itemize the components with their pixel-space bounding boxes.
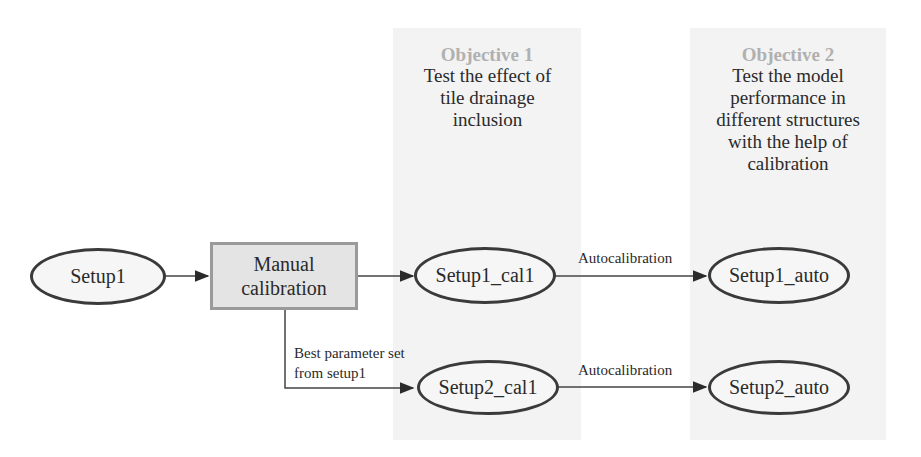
node-setup1: Setup1 — [30, 248, 166, 305]
edge-label-best-parameter: Best parameter set from setup1 — [294, 343, 414, 383]
node-manual-calibration: Manual calibration — [210, 242, 358, 310]
edge-label-autocalibration-2: Autocalibration — [578, 360, 672, 380]
node-setup2-auto: Setup2_auto — [708, 360, 850, 415]
node-setup2-cal1: Setup2_cal1 — [417, 360, 559, 415]
node-setup1-cal1: Setup1_cal1 — [414, 247, 556, 304]
edge-label-autocalibration-1: Autocalibration — [578, 248, 672, 268]
node-setup1-auto: Setup1_auto — [708, 247, 850, 304]
